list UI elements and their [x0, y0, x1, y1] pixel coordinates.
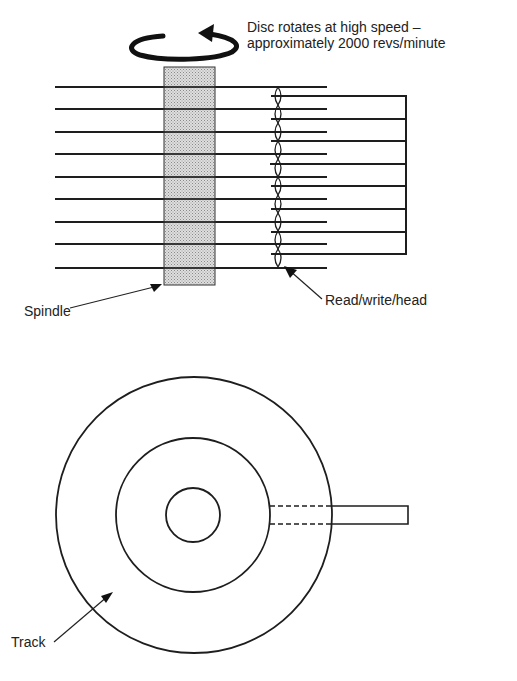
- head-pointer-arrow: [284, 266, 322, 299]
- rotation-caption-line2: approximately 2000 revs/minute: [247, 35, 445, 51]
- access-arms: [270, 95, 406, 255]
- plan-arm: [270, 506, 408, 524]
- plan-view: [56, 377, 332, 653]
- outer-disc-edge: [56, 377, 332, 653]
- spindle-label: Spindle: [24, 303, 71, 319]
- read-write-head-label: Read/write/head: [325, 292, 427, 308]
- track-label: Track: [11, 634, 45, 650]
- spindle-pointer-arrow: [70, 284, 162, 308]
- spindle-hole: [166, 488, 220, 542]
- rotation-caption: Disc rotates at high speed – approximate…: [247, 19, 445, 51]
- track-pointer-arrow: [54, 592, 113, 642]
- rotation-arrow-icon: [131, 24, 236, 59]
- disc-drive-diagram: Disc rotates at high speed – approximate…: [0, 0, 517, 681]
- rotation-caption-line1: Disc rotates at high speed –: [247, 19, 445, 35]
- track-circle: [116, 438, 270, 592]
- diagram-canvas: [0, 0, 517, 681]
